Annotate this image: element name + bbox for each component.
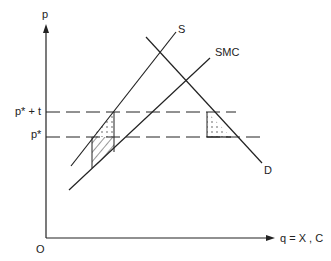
x-axis-label: q = X , C	[280, 233, 323, 244]
y-axis-arrow-icon	[43, 24, 49, 33]
p-star-plus-t-label: p* + t	[15, 106, 41, 117]
p-star-label: p*	[31, 129, 41, 140]
diagram-canvas	[0, 0, 331, 261]
hatched-region-left	[92, 137, 114, 168]
y-axis-label: p	[42, 9, 48, 20]
d-curve-label: D	[264, 165, 272, 176]
demand-curve-D	[146, 37, 262, 163]
x-axis-arrow-icon	[266, 235, 275, 241]
x-axis	[46, 235, 275, 241]
s-curve-label: S	[178, 24, 185, 35]
smc-curve-label: SMC	[215, 47, 239, 58]
origin-label: O	[36, 244, 45, 255]
y-axis	[43, 24, 49, 238]
